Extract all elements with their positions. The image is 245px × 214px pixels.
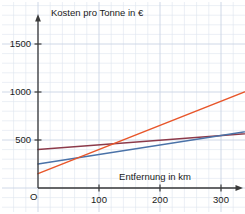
y-axis-title: Kosten pro Tonne in €	[51, 7, 144, 18]
y-axis-tick-label: 500	[15, 134, 31, 145]
chart-container: 10020030040050010001500 Kosten pro Tonne…	[0, 0, 245, 214]
y-axis-tick-label: 1000	[10, 86, 31, 97]
y-axis-tick-label: 1500	[10, 38, 31, 49]
origin-label: O	[30, 191, 37, 202]
line-chart: 10020030040050010001500 Kosten pro Tonne…	[0, 0, 245, 214]
x-axis-tick-label: 200	[152, 194, 168, 205]
x-axis-title: Entfernung in km	[119, 171, 191, 182]
x-axis-tick-label: 300	[213, 194, 229, 205]
x-axis-tick-label: 100	[91, 194, 107, 205]
